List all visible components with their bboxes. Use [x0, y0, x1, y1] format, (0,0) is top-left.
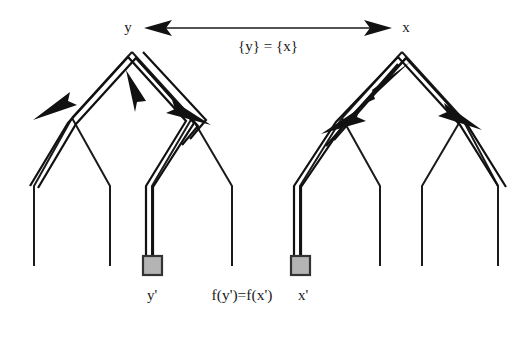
- right-leaf-label: x': [298, 287, 309, 303]
- right-tree-leaf-2: [342, 118, 380, 266]
- right-tree-leaf-1: [300, 118, 342, 266]
- root-equivalence-arrow: [144, 20, 392, 36]
- top-relation-label: {y} = {x}: [238, 38, 298, 54]
- right-tree-edges: [300, 52, 498, 266]
- left-root-label: y: [124, 19, 132, 35]
- left-arrow-down-right-icon: [166, 100, 211, 125]
- right-tree-leaf-4: [462, 118, 498, 266]
- left-tree-highlighted-path: [30, 52, 206, 256]
- right-marked-leaf-box: [291, 256, 310, 275]
- left-tree-leaf-2: [72, 118, 110, 266]
- right-path-rail-down-left-2: [326, 64, 398, 146]
- right-tree-highlighted-path: [294, 57, 506, 256]
- diagram-canvas: y x {y} = {x} y' x' f(y')=f(x'): [0, 0, 532, 364]
- figure-root: y x {y} = {x} y' x' f(y')=f(x'): [0, 0, 532, 364]
- left-tree-leaf-4: [192, 118, 232, 266]
- right-root-label: x: [402, 19, 410, 35]
- right-path-rail-down-left: [334, 58, 406, 140]
- left-path-rail-inner: [38, 58, 194, 256]
- left-marked-leaf-box: [143, 256, 162, 275]
- right-path-rail-outer: [294, 57, 498, 256]
- left-arrow-up-to-root-icon: [126, 70, 146, 112]
- bottom-relation-label: f(y')=f(x'): [212, 286, 273, 304]
- right-tree-leaf-3: [422, 118, 462, 266]
- left-arrow-down-left-icon: [33, 92, 77, 120]
- left-leaf-label: y': [147, 287, 158, 303]
- right-path-rail-inner: [301, 58, 506, 256]
